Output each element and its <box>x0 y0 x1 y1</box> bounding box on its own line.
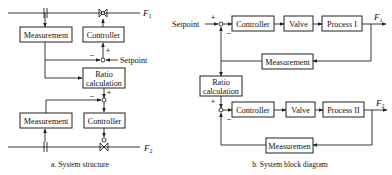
panel-b-block-diagram: Setpoint + – Controller Valve Process I … <box>172 12 387 169</box>
summing-junction-bottom <box>102 98 106 102</box>
svg-text:Controller: Controller <box>236 20 270 29</box>
svg-text:Measurement: Measurement <box>265 58 310 67</box>
measurement-top-label: Measurement <box>24 31 69 40</box>
panel-a-system-structure: F1 Measurement Controller – + Setpoint R… <box>8 8 153 169</box>
svg-text:Controller: Controller <box>88 117 122 126</box>
control-valve-icon <box>100 138 108 151</box>
svg-text:Valve: Valve <box>289 20 308 29</box>
svg-text:Ratio: Ratio <box>212 78 230 87</box>
controller-top-label: Controller <box>87 31 121 40</box>
caption-b: b. System block diagram <box>252 160 328 169</box>
svg-text:+: + <box>107 89 111 96</box>
summing-junction-loop1 <box>219 22 223 26</box>
output-f2-label: F2 <box>375 98 385 109</box>
flow-f2-label: F2 <box>143 143 153 154</box>
summing-junction-loop2 <box>219 108 223 112</box>
svg-text:Measurement: Measurement <box>24 117 69 126</box>
svg-text:–: – <box>90 51 94 58</box>
svg-text:–: – <box>90 92 94 99</box>
setpoint-label-b: Setpoint <box>172 20 200 29</box>
svg-text:+: + <box>106 47 110 54</box>
setpoint-label-a: Setpoint <box>120 56 148 65</box>
output-f1-label: F1 <box>373 12 383 23</box>
svg-text:Ratio: Ratio <box>95 70 113 79</box>
flow-f1-label: F1 <box>142 8 152 19</box>
svg-text:Valve: Valve <box>291 106 310 115</box>
svg-text:Process II: Process II <box>327 106 360 115</box>
svg-text:calculation: calculation <box>203 87 239 96</box>
svg-text:–: – <box>227 29 231 36</box>
caption-a: a. System structure <box>51 160 110 169</box>
svg-text:Controller: Controller <box>236 106 270 115</box>
ratio-control-figure: F1 Measurement Controller – + Setpoint R… <box>0 0 392 175</box>
svg-text:–: – <box>227 115 231 122</box>
svg-text:Measuremen: Measuremen <box>268 142 310 151</box>
svg-text:+: + <box>211 14 215 21</box>
svg-text:Process I: Process I <box>327 20 357 29</box>
svg-text:calculation: calculation <box>86 79 122 88</box>
summing-junction-top <box>101 58 105 62</box>
svg-text:+: + <box>211 98 215 105</box>
